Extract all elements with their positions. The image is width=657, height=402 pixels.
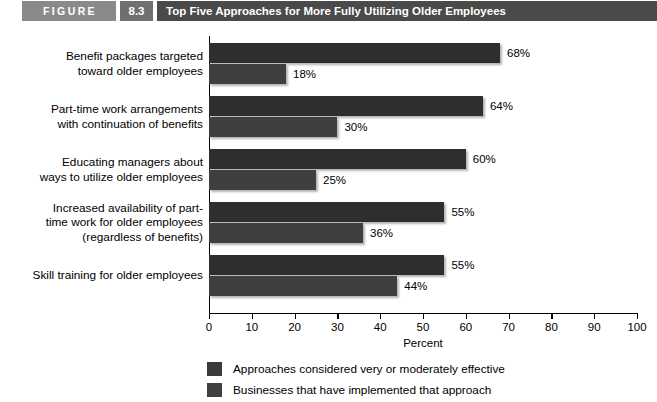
bar-effective (209, 43, 500, 63)
category-label: Skill training for older employees (0, 268, 203, 282)
legend-swatch-implemented (207, 383, 222, 397)
x-tick (637, 313, 638, 319)
bar-value-label: 44% (404, 280, 427, 292)
category-label-line: Part-time work arrangements (0, 102, 203, 116)
x-tick (209, 313, 210, 319)
legend-label: Approaches considered very or moderately… (233, 362, 505, 376)
bar-effective (209, 96, 483, 116)
category-label-line: Benefit packages targeted (0, 49, 203, 63)
bar-effective (209, 149, 466, 169)
bar-value-label: 55% (451, 206, 474, 218)
category-label: Increased availability of part-time work… (0, 201, 203, 244)
category-label-line: with continuation of benefits (0, 117, 203, 131)
bar-value-label: 60% (473, 153, 496, 165)
bar-value-label: 55% (451, 259, 474, 271)
x-tick (594, 313, 595, 319)
x-tick (252, 313, 253, 319)
bar-value-label: 36% (370, 227, 393, 239)
bar-implemented (209, 64, 286, 84)
x-tick-label: 30 (317, 321, 357, 333)
legend-label: Businesses that have implemented that ap… (233, 383, 491, 397)
chart-legend: Approaches considered very or moderately… (207, 358, 647, 400)
figure-number: 8.3 (120, 1, 153, 21)
legend-item: Businesses that have implemented that ap… (207, 379, 647, 400)
category-label-line: time work for older employees (0, 215, 203, 229)
category-label-line: Educating managers about (0, 155, 203, 169)
category-label-line: (regardless of benefits) (0, 230, 203, 244)
figure-label: FIGURE (22, 1, 116, 21)
x-tick (509, 313, 510, 319)
bar-group: Benefit packages targetedtoward older em… (0, 43, 654, 84)
x-tick-label: 10 (232, 321, 272, 333)
category-label: Part-time work arrangementswith continua… (0, 102, 203, 130)
x-tick-label: 50 (403, 321, 443, 333)
bar-value-label: 64% (490, 100, 513, 112)
x-tick-label: 100 (617, 321, 657, 333)
category-label-line: ways to utilize older employees (0, 170, 203, 184)
x-tick (423, 313, 424, 319)
x-tick-label: 40 (360, 321, 400, 333)
bar-value-label: 30% (344, 121, 367, 133)
x-tick-label: 90 (574, 321, 614, 333)
bar-implemented (209, 170, 316, 190)
bar-effective (209, 202, 444, 222)
x-tick-label: 60 (446, 321, 486, 333)
bar-group: Increased availability of part-time work… (0, 202, 654, 243)
figure-header: FIGURE 8.3 Top Five Approaches for More … (22, 1, 657, 21)
bar-group: Part-time work arrangementswith continua… (0, 96, 654, 137)
x-tick (295, 313, 296, 319)
x-tick-label: 20 (275, 321, 315, 333)
x-tick (551, 313, 552, 319)
x-tick (380, 313, 381, 319)
category-label-line: Increased availability of part- (0, 201, 203, 215)
bar-group: Educating managers aboutways to utilize … (0, 149, 654, 190)
legend-swatch-effective (207, 362, 222, 376)
bar-implemented (209, 276, 397, 296)
x-axis-title: Percent (209, 337, 637, 349)
x-tick (337, 313, 338, 319)
bar-group: Skill training for older employees55%44% (0, 255, 654, 296)
legend-item: Approaches considered very or moderately… (207, 358, 647, 379)
x-tick (466, 313, 467, 319)
bar-value-label: 18% (293, 68, 316, 80)
category-label: Benefit packages targetedtoward older em… (0, 49, 203, 77)
category-label-line: Skill training for older employees (0, 268, 203, 282)
bar-value-label: 68% (507, 47, 530, 59)
x-tick-label: 70 (489, 321, 529, 333)
bar-chart: 0102030405060708090100 Benefit packages … (0, 30, 654, 330)
category-label-line: toward older employees (0, 64, 203, 78)
x-tick-label: 0 (189, 321, 229, 333)
category-label: Educating managers aboutways to utilize … (0, 155, 203, 183)
bar-value-label: 25% (323, 174, 346, 186)
x-tick-label: 80 (531, 321, 571, 333)
bar-implemented (209, 117, 337, 137)
figure-title: Top Five Approaches for More Fully Utili… (157, 1, 657, 21)
bar-implemented (209, 223, 363, 243)
bar-effective (209, 255, 444, 275)
